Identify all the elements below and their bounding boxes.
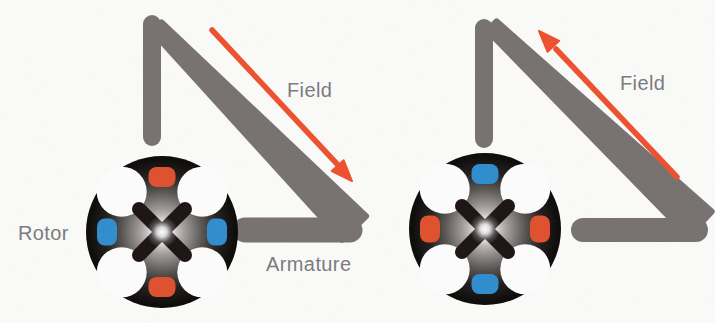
- paper-grain-overlay: [0, 0, 715, 323]
- rotor-label: Rotor: [18, 222, 69, 244]
- diagram-svg: [0, 0, 715, 323]
- figure-canvas: Field Field Rotor Armature: [0, 0, 715, 323]
- field-label-left: Field: [287, 79, 332, 101]
- armature-label: Armature: [266, 253, 351, 275]
- field-label-right: Field: [620, 72, 665, 94]
